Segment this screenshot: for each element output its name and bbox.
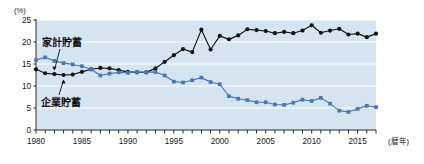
- data-point: [301, 98, 305, 102]
- data-point: [62, 61, 66, 65]
- x-axis-tick-label: 2010: [303, 137, 322, 146]
- x-axis-tick-label: 1990: [119, 137, 138, 146]
- data-point: [181, 81, 185, 85]
- data-point: [254, 28, 258, 32]
- data-point: [218, 82, 222, 86]
- data-point: [71, 72, 75, 76]
- data-point: [43, 71, 47, 75]
- data-point: [282, 30, 286, 34]
- data-point: [163, 74, 167, 78]
- y-axis-tick-label: 10: [22, 82, 32, 91]
- data-point: [117, 71, 121, 75]
- data-point: [154, 70, 158, 74]
- series-label: 企業貯蓄: [40, 96, 81, 108]
- data-point: [291, 31, 295, 35]
- data-point: [227, 94, 231, 98]
- data-point: [264, 100, 268, 104]
- data-point: [43, 56, 47, 60]
- data-point: [34, 67, 38, 71]
- x-axis-unit-label: (暦年): [388, 136, 410, 146]
- data-point: [236, 97, 240, 101]
- data-point: [300, 28, 304, 32]
- data-point: [172, 80, 176, 84]
- x-axis-tick-label: 1995: [165, 137, 184, 146]
- data-point: [282, 103, 286, 107]
- data-point: [264, 29, 268, 33]
- data-point: [108, 72, 112, 76]
- data-point: [236, 33, 240, 37]
- data-point: [163, 60, 167, 64]
- data-point: [328, 102, 332, 106]
- data-point: [319, 31, 323, 35]
- data-point: [209, 80, 213, 84]
- y-axis-unit-label: (%): [14, 6, 26, 15]
- data-point: [126, 71, 130, 75]
- data-point: [107, 66, 111, 70]
- data-point: [245, 27, 249, 31]
- data-point: [80, 70, 84, 74]
- y-axis-tick-label: 20: [22, 38, 32, 47]
- data-point: [135, 70, 139, 74]
- data-point: [319, 96, 323, 100]
- data-point: [200, 76, 204, 80]
- x-axis-tick-label: 2005: [257, 137, 276, 146]
- data-point: [218, 34, 222, 38]
- data-point: [346, 32, 350, 36]
- data-point: [190, 50, 194, 54]
- x-axis-tick-label: 2015: [349, 137, 368, 146]
- data-point: [144, 71, 148, 75]
- data-point: [374, 32, 378, 36]
- data-point: [310, 99, 314, 103]
- data-point: [291, 101, 295, 105]
- data-point: [227, 37, 231, 41]
- data-point: [80, 64, 84, 68]
- data-point: [356, 107, 360, 111]
- data-point: [71, 63, 75, 67]
- data-point: [34, 58, 38, 62]
- data-point: [273, 103, 277, 107]
- plot-area: [36, 20, 376, 130]
- savings-rate-line-chart: 0510152025 19801985199019952000200520102…: [0, 0, 424, 164]
- data-point: [199, 28, 203, 32]
- data-point: [337, 27, 341, 31]
- y-axis-tick-label: 25: [22, 16, 32, 25]
- x-axis-tick-label: 1980: [27, 137, 46, 146]
- y-axis-tick-label: 5: [26, 104, 31, 113]
- data-point: [328, 28, 332, 32]
- x-axis-tick-label: 1985: [73, 137, 92, 146]
- data-point: [374, 105, 378, 109]
- data-point: [52, 72, 56, 76]
- data-point: [255, 100, 259, 104]
- x-axis-tick-label: 2000: [211, 137, 230, 146]
- series-label: 家計貯蓄: [42, 36, 82, 48]
- data-point: [337, 109, 341, 113]
- data-point: [273, 31, 277, 35]
- data-point: [347, 110, 351, 114]
- data-point: [365, 35, 369, 39]
- y-axis-tick-label: 15: [22, 60, 32, 69]
- y-axis-tick-label: 0: [26, 126, 31, 135]
- data-point: [153, 66, 157, 70]
- data-point: [89, 67, 93, 71]
- data-point: [98, 74, 102, 78]
- data-point: [365, 104, 369, 108]
- data-point: [208, 47, 212, 51]
- data-point: [61, 73, 65, 77]
- data-point: [172, 53, 176, 57]
- data-point: [356, 32, 360, 36]
- data-point: [181, 47, 185, 51]
- data-point: [190, 78, 194, 82]
- data-point: [53, 59, 57, 63]
- data-point: [246, 98, 250, 102]
- data-point: [310, 23, 314, 27]
- chart-canvas: 0510152025 19801985199019952000200520102…: [0, 0, 424, 164]
- data-point: [98, 66, 102, 70]
